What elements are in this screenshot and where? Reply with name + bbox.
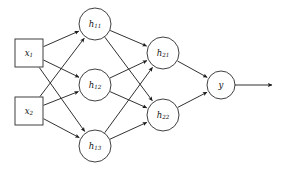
node-h21: h21 <box>147 37 179 69</box>
edge-x2-to-h13 <box>44 119 80 138</box>
node-label-y: y <box>218 80 224 90</box>
node-y: y <box>207 71 235 99</box>
edge-h12-to-h21 <box>110 61 147 78</box>
edge-h22-to-y <box>178 92 207 107</box>
node-x1: x1 <box>15 39 43 67</box>
neural-network-canvas: x1x2h11h12h13h21h22y <box>0 0 281 169</box>
node-h13: h13 <box>79 130 111 162</box>
node-h11: h11 <box>79 8 111 40</box>
edge-h11-to-h21 <box>110 30 146 46</box>
edge-x2-to-h12 <box>44 92 79 106</box>
edge-x2-to-h11 <box>40 38 84 96</box>
edge-x1-to-h11 <box>44 31 79 46</box>
edge-layer <box>39 30 207 139</box>
node-h22: h22 <box>147 99 179 131</box>
node-x2: x2 <box>15 97 43 125</box>
edge-h13-to-h22 <box>110 122 147 139</box>
node-h12: h12 <box>79 69 111 101</box>
edge-h21-to-y <box>177 61 207 77</box>
node-layer: x1x2h11h12h13h21h22y <box>15 8 235 162</box>
neural-network-diagram: x1x2h11h12h13h21h22y <box>0 0 281 169</box>
